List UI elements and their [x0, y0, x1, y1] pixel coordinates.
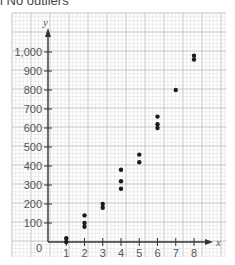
data-point	[174, 88, 178, 92]
origin-label: 0	[36, 242, 42, 254]
data-point	[101, 206, 105, 210]
y-tick-label: 800	[24, 84, 42, 96]
x-tick-label: 1	[63, 247, 69, 259]
x-axis-label: x	[215, 236, 221, 248]
data-point	[155, 122, 159, 126]
x-tick-label: 2	[81, 247, 87, 259]
x-tick-label: 6	[154, 247, 160, 259]
y-tick-label: 700	[24, 103, 42, 115]
y-tick-label: 100	[24, 217, 42, 229]
x-tick-label: 3	[100, 247, 106, 259]
x-tick-label: 7	[173, 247, 179, 259]
data-point	[101, 202, 105, 206]
data-point	[155, 114, 159, 118]
data-point	[119, 179, 123, 183]
scatter-chart: yx0 1002003004005006007008009001,000 123…	[0, 0, 235, 265]
data-point	[82, 221, 86, 225]
data-point	[64, 240, 68, 244]
data-point	[119, 187, 123, 191]
y-axis-label: y	[42, 16, 48, 28]
x-tick-label: 5	[136, 247, 142, 259]
y-tick-label: 400	[24, 160, 42, 172]
y-tick-label: 1,000	[14, 46, 42, 58]
y-tick-label: 300	[24, 179, 42, 191]
x-tick-label: 4	[118, 247, 124, 259]
data-point	[155, 126, 159, 130]
data-point	[137, 152, 141, 156]
data-point	[82, 213, 86, 217]
data-point	[192, 57, 196, 61]
y-tick-label: 500	[24, 141, 42, 153]
data-point	[192, 54, 196, 58]
data-point	[64, 236, 68, 240]
data-point	[119, 168, 123, 172]
y-tick-label: 900	[24, 65, 42, 77]
data-point	[82, 225, 86, 229]
y-tick-label: 600	[24, 122, 42, 134]
y-tick-label: 200	[24, 198, 42, 210]
graph-paper-grid	[12, 13, 226, 257]
x-tick-label: 8	[191, 247, 197, 259]
x-axis-arrow-icon	[205, 239, 213, 245]
data-point	[137, 160, 141, 164]
data-points	[64, 54, 196, 245]
